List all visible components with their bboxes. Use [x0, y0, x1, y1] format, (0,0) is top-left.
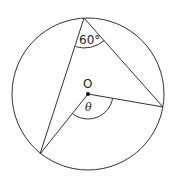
chord-top-to-bottom-left [40, 18, 84, 154]
center-point [86, 92, 90, 96]
inscribed-angle-label: 60° [79, 33, 100, 47]
radius-to-bottom-left [40, 94, 88, 154]
radius-to-right [88, 94, 163, 107]
circle-diagram: O 60° θ [0, 0, 173, 181]
center-label: O [83, 77, 92, 91]
chord-top-to-right [84, 18, 163, 107]
central-angle-label: θ [85, 101, 92, 114]
central-angle-arc [72, 98, 112, 119]
